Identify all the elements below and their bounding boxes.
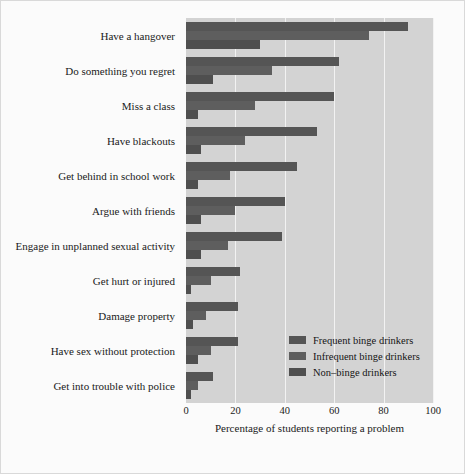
legend-swatch-icon <box>289 336 306 344</box>
category-label: Get behind in school work <box>58 170 175 182</box>
bar <box>186 31 369 40</box>
bar <box>186 180 198 189</box>
category-label: Have sex without protection <box>51 345 175 357</box>
bar <box>186 110 198 119</box>
bar <box>186 381 198 390</box>
gridline <box>433 18 434 403</box>
bar <box>186 127 317 136</box>
bar <box>186 215 201 224</box>
legend-item: Frequent binge drinkers <box>289 332 420 348</box>
bar <box>186 320 193 329</box>
bar <box>186 276 211 285</box>
category-axis-labels: Have a hangoverDo something you regretMi… <box>1 18 181 403</box>
bar <box>186 22 408 31</box>
bar <box>186 241 228 250</box>
legend-swatch-icon <box>289 352 306 360</box>
bar <box>186 302 238 311</box>
category-label: Miss a class <box>122 100 175 112</box>
legend-swatch-icon <box>289 368 306 376</box>
bar <box>186 311 206 320</box>
legend-item: Infrequent binge drinkers <box>289 348 420 364</box>
x-tick-label: 80 <box>378 405 389 416</box>
legend-label: Frequent binge drinkers <box>313 335 413 346</box>
bar <box>186 101 255 110</box>
x-tick-label: 100 <box>425 405 441 416</box>
bar <box>186 285 191 294</box>
category-label: Engage in unplanned sexual activity <box>16 240 175 252</box>
bar <box>186 355 198 364</box>
bar <box>186 92 334 101</box>
bar <box>186 57 339 66</box>
bar <box>186 197 285 206</box>
legend-label: Infrequent binge drinkers <box>313 351 420 362</box>
bar <box>186 145 201 154</box>
bar <box>186 346 211 355</box>
bar <box>186 337 238 346</box>
category-label: Damage property <box>98 310 175 322</box>
bar <box>186 206 235 215</box>
category-label: Get into trouble with police <box>53 380 175 392</box>
x-axis-ticks: 020406080100 <box>186 405 433 421</box>
bar <box>186 232 282 241</box>
x-tick-label: 40 <box>280 405 291 416</box>
bar <box>186 171 230 180</box>
category-label: Have blackouts <box>107 135 175 147</box>
x-tick-label: 60 <box>329 405 340 416</box>
bar <box>186 250 201 259</box>
legend-item: Non–binge drinkers <box>289 364 420 380</box>
category-label: Have a hangover <box>100 30 175 42</box>
x-tick-label: 0 <box>183 405 188 416</box>
bar <box>186 136 245 145</box>
bar <box>186 162 297 171</box>
category-label: Argue with friends <box>92 205 175 217</box>
x-axis-title: Percentage of students reporting a probl… <box>186 422 433 434</box>
bar <box>186 40 260 49</box>
bar <box>186 390 191 399</box>
bar <box>186 372 213 381</box>
bar <box>186 75 213 84</box>
bar <box>186 267 240 276</box>
chart-figure: Have a hangoverDo something you regretMi… <box>0 0 465 474</box>
x-tick-label: 20 <box>230 405 241 416</box>
category-label: Get hurt or injured <box>93 275 175 287</box>
legend-label: Non–binge drinkers <box>313 367 397 378</box>
chart-legend: Frequent binge drinkersInfrequent binge … <box>289 332 420 380</box>
category-label: Do something you regret <box>65 65 175 77</box>
bar <box>186 66 272 75</box>
